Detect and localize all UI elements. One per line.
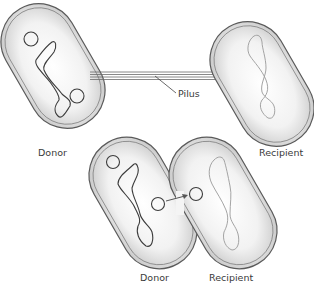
- top-donor-cell: [0, 0, 119, 142]
- bottom-recipient-label: Recipient: [209, 272, 253, 283]
- top-recipient-label: Recipient: [259, 147, 303, 158]
- pilus-label: Pilus: [178, 88, 200, 99]
- bottom-donor-label: Donor: [140, 272, 169, 283]
- conjugation-diagram: [0, 0, 314, 284]
- pilus: [90, 72, 226, 93]
- top-donor-label: Donor: [38, 147, 67, 158]
